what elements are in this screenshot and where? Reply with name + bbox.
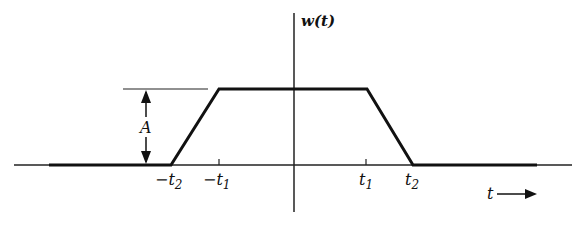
- tick-label-t1: t1: [359, 170, 373, 192]
- tick-label-t2: t2: [405, 170, 419, 192]
- svg-text:−t2: −t2: [155, 170, 182, 192]
- x-axis-label: t: [487, 184, 494, 203]
- svg-text:−t1: −t1: [203, 170, 230, 192]
- tick-label-neg-t1: −t1: [203, 170, 230, 192]
- y-axis-label: w(t): [301, 12, 335, 30]
- amplitude-label: A: [138, 118, 152, 137]
- tick-label-neg-t2: −t2: [155, 170, 182, 192]
- svg-text:t2: t2: [405, 170, 419, 192]
- trapezoid-pulse-diagram: A −t2 −t1 t1 t2 w(t) t: [0, 0, 577, 226]
- right-arrow-icon: [497, 189, 537, 199]
- pulse-waveform: [49, 89, 537, 165]
- svg-text:t1: t1: [359, 170, 373, 192]
